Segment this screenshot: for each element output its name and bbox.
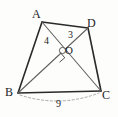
vertex-label-C: C xyxy=(102,89,110,101)
point-label-O: O xyxy=(65,45,73,56)
vertex-label-A: A xyxy=(32,8,41,20)
side-AD xyxy=(42,22,88,28)
vertex-label-D: D xyxy=(87,17,96,29)
segment-AO-length: 4 xyxy=(44,36,49,46)
geometry-figure: A D B C O 4 3 9 xyxy=(0,0,118,117)
segment-OD-length: 3 xyxy=(68,30,73,40)
side-BC-length: 9 xyxy=(56,99,61,109)
vertex-label-B: B xyxy=(5,86,13,98)
side-BC xyxy=(18,91,101,93)
side-DC xyxy=(88,28,101,91)
